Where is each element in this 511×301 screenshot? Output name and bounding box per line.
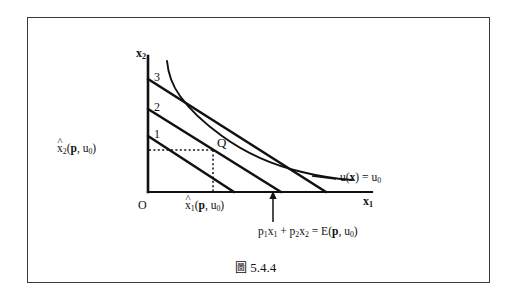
budget-line-2-label: 2 — [154, 101, 160, 113]
hat-accent-x1: x — [185, 200, 191, 212]
budget-equation-label: p1x1 + p2x2 = E(p, u0) — [258, 226, 358, 238]
budget-line-3-label: 3 — [154, 71, 160, 83]
hicksian-demand-x1-label: x1(p, u0) — [185, 200, 224, 212]
origin-label: O — [138, 199, 147, 211]
figure-caption-symbol: 圖 — [235, 261, 247, 275]
budget-line-3 — [148, 79, 326, 192]
point-q-label: Q — [217, 136, 226, 149]
hat-accent-x2: x — [57, 143, 63, 155]
x-axis-label: x1 — [363, 195, 373, 207]
figure-caption: 圖 5.4.4 — [0, 258, 511, 276]
budget-line-1-label: 1 — [154, 128, 160, 140]
hicksian-demand-x2-label: x2(p, u0) — [57, 143, 96, 155]
indifference-curve-label: u(x) = u0 — [340, 172, 381, 184]
indifference-curve — [167, 61, 352, 180]
y-axis-label: x2 — [136, 47, 146, 59]
figure-page: x2 x1 O 3 2 1 Q u(x) = u0 x2(p, u0) x1(p… — [0, 0, 511, 301]
figure-caption-number: 5.4.4 — [250, 260, 276, 275]
